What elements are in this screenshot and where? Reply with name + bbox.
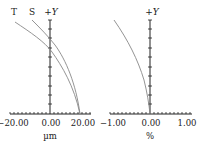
x-tick-max: 20.00	[71, 118, 95, 128]
field-curves-plot: T S +Y −20.00 0.00 20.00 µm	[0, 7, 95, 141]
legend-t: T	[11, 7, 17, 17]
x-tick-min: −1.00	[100, 118, 126, 128]
y-axis-label: +Y	[145, 7, 160, 17]
x-tick-zero: 0.00	[42, 118, 61, 128]
sagittal-curve	[32, 20, 80, 114]
distortion-plot: +Y −1.00 0.00 1.00 %	[100, 7, 197, 141]
legend-s: S	[29, 7, 35, 17]
distortion-curve	[114, 20, 150, 114]
x-axis-unit: %	[146, 131, 154, 141]
x-axis-unit: µm	[43, 131, 57, 141]
charts-canvas: T S +Y −20.00 0.00 20.00 µm	[0, 0, 201, 148]
x-tick-min: −20.00	[0, 118, 29, 128]
x-tick-max: 1.00	[178, 118, 197, 128]
y-axis-label: +Y	[44, 7, 59, 17]
x-tick-zero: 0.00	[142, 118, 161, 128]
